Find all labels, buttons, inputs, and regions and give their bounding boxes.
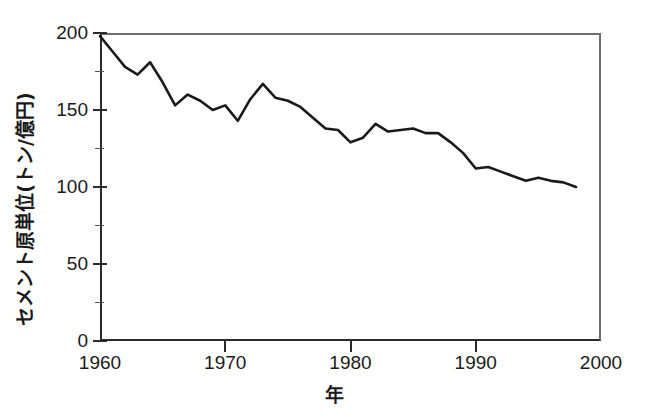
x-tick-1970 xyxy=(224,341,226,352)
x-axis-title: 年 xyxy=(0,380,668,407)
y-tick-150 xyxy=(93,109,107,111)
y-tick-100 xyxy=(93,186,107,188)
y-minor-tick-75 xyxy=(95,225,104,226)
x-tick-label-1960: 1960 xyxy=(79,352,121,373)
series-line-cement-intensity xyxy=(100,36,576,187)
x-tick-label-wrap-1980: 1980 xyxy=(306,352,396,374)
chart-figure: セメント原単位(トン/億円) 年 05010015020019601970198… xyxy=(0,0,668,417)
y-tick-0 xyxy=(93,340,107,342)
y-tick-50 xyxy=(93,263,107,265)
x-tick-1980 xyxy=(350,341,352,352)
x-tick-label-wrap-1970: 1970 xyxy=(180,352,270,374)
x-tick-1990 xyxy=(475,341,477,352)
x-tick-label-1970: 1970 xyxy=(204,352,246,373)
y-tick-label-wrap-150: 150 xyxy=(0,100,88,119)
y-tick-label-wrap-0: 0 xyxy=(0,331,88,350)
x-tick-label-1990: 1990 xyxy=(455,352,497,373)
y-minor-tick-125 xyxy=(95,148,104,149)
y-tick-label-0: 0 xyxy=(0,331,88,350)
x-tick-label-wrap-1990: 1990 xyxy=(431,352,521,374)
y-tick-label-150: 150 xyxy=(0,100,88,119)
x-tick-label-wrap-1960: 1960 xyxy=(55,352,145,374)
x-tick-label-1980: 1980 xyxy=(329,352,371,373)
y-tick-label-wrap-100: 100 xyxy=(0,177,88,196)
y-tick-label-100: 100 xyxy=(0,177,88,196)
y-tick-label-200: 200 xyxy=(0,23,88,42)
y-tick-200 xyxy=(93,32,107,34)
y-tick-label-50: 50 xyxy=(0,254,88,273)
series-layer xyxy=(100,33,601,341)
y-minor-tick-175 xyxy=(95,71,104,72)
x-tick-label-wrap-2000: 2000 xyxy=(556,352,646,374)
x-tick-label-2000: 2000 xyxy=(580,352,622,373)
y-tick-label-wrap-50: 50 xyxy=(0,254,88,273)
y-tick-label-wrap-200: 200 xyxy=(0,23,88,42)
y-minor-tick-25 xyxy=(95,302,104,303)
